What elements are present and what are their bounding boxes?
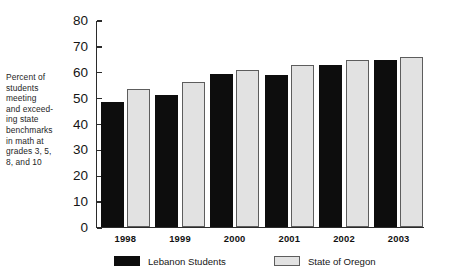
y-axis-tick-label: 30 — [73, 144, 88, 158]
bar-group: 1999 — [155, 21, 205, 227]
y-axis-tick-label: 10 — [73, 195, 88, 209]
bar-group: 2001 — [265, 21, 315, 227]
y-axis-caption-line: 8, and 10 — [6, 157, 72, 168]
y-axis-caption-line: Percent of — [6, 72, 72, 83]
x-axis-category-label: 2003 — [374, 233, 424, 244]
bar-lebanon-students — [374, 60, 397, 227]
x-axis-line — [96, 227, 424, 228]
y-axis-tick-label: 20 — [73, 170, 88, 184]
bar-state-of-oregon — [127, 89, 150, 226]
bar-lebanon-students — [319, 65, 342, 227]
bar-state-of-oregon — [346, 60, 369, 227]
y-axis-caption-line: ing state — [6, 114, 72, 125]
y-axis-tick-label: 40 — [73, 118, 88, 132]
x-axis-category-label: 1998 — [101, 233, 151, 244]
bar-lebanon-students — [155, 95, 178, 227]
bar-state-of-oregon — [182, 82, 205, 227]
x-axis-category-label: 2000 — [210, 233, 260, 244]
y-axis-tick-label: 50 — [73, 92, 88, 106]
bar-group: 2002 — [319, 21, 369, 227]
y-axis-tick-label: 60 — [73, 66, 88, 80]
legend-swatch-icon — [274, 256, 300, 266]
y-axis-caption-line: and exceed- — [6, 104, 72, 115]
y-axis-caption: Percent of students meeting and exceed- … — [6, 72, 72, 167]
bar-lebanon-students — [101, 102, 124, 226]
y-axis-caption-line: benchmarks — [6, 125, 72, 136]
legend-entry-state-of-oregon: State of Oregon — [274, 256, 376, 267]
plot-area: 01020304050607080 1998199920002001200220… — [96, 21, 424, 228]
x-axis-category-label: 2001 — [265, 233, 315, 244]
bar-state-of-oregon — [400, 57, 423, 226]
x-axis-category-label: 2002 — [319, 233, 369, 244]
bar-chart: Percent of students meeting and exceed- … — [0, 0, 456, 276]
bar-state-of-oregon — [291, 65, 314, 227]
legend-label: State of Oregon — [308, 256, 376, 267]
y-axis-caption-line: grades 3, 5, — [6, 146, 72, 157]
x-axis-category-label: 1999 — [155, 233, 205, 244]
bar-group: 2003 — [374, 21, 424, 227]
bar-state-of-oregon — [236, 70, 259, 227]
legend-entry-lebanon-students: Lebanon Students — [114, 256, 226, 267]
bar-group: 2000 — [210, 21, 260, 227]
legend-label: Lebanon Students — [148, 256, 226, 267]
y-axis-caption-line: students — [6, 83, 72, 94]
y-axis-caption-line: in math at — [6, 136, 72, 147]
y-axis-tick-label: 0 — [80, 221, 88, 235]
y-axis-tick — [97, 227, 102, 228]
y-axis-tick-label: 80 — [73, 14, 88, 28]
chart-legend: Lebanon Students State of Oregon — [96, 252, 424, 270]
bar-group: 1998 — [101, 21, 151, 227]
bar-lebanon-students — [265, 75, 288, 226]
y-axis-tick-label: 70 — [73, 40, 88, 54]
y-axis-caption-line: meeting — [6, 93, 72, 104]
bar-lebanon-students — [210, 74, 233, 227]
legend-swatch-icon — [114, 256, 140, 266]
